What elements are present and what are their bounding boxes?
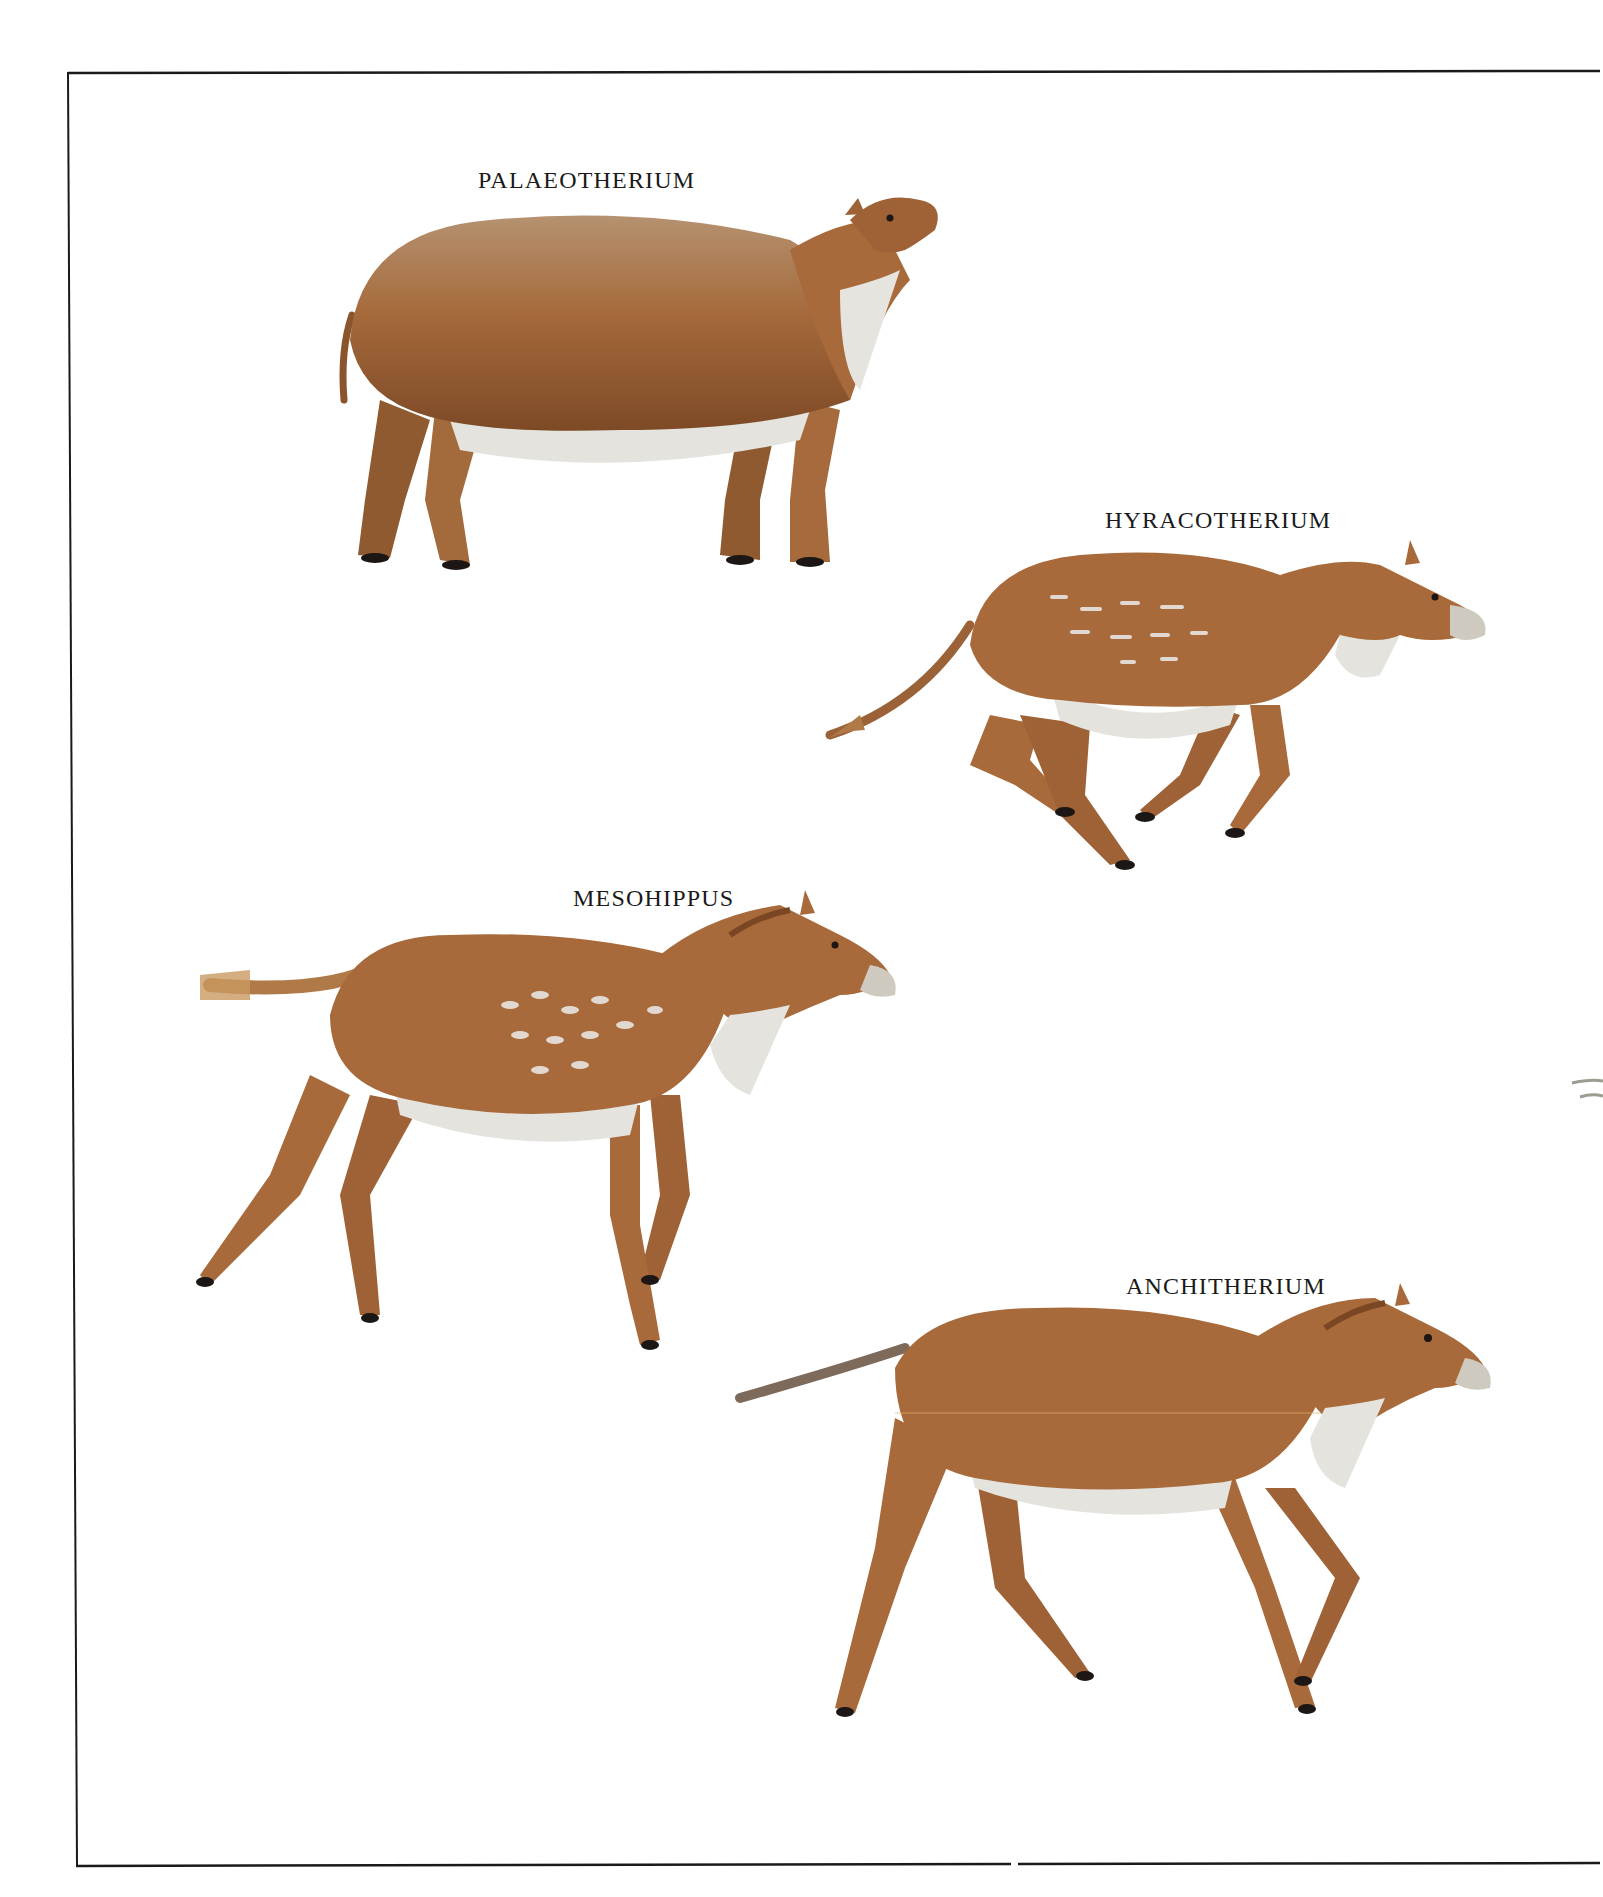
animal-label-palaeotherium: PALAEOTHERIUM: [478, 168, 695, 192]
anchitherium-illustration: [735, 1288, 1525, 1728]
edge-fragment: [1572, 1080, 1603, 1097]
frame-bottom-rule-left: [76, 1864, 1011, 1866]
hyracotherium-illustration: [820, 535, 1520, 885]
frame-left-rule: [68, 72, 77, 1866]
frame-bottom-rule-right: [1018, 1863, 1600, 1864]
animal-label-hyracotherium: HYRACOTHERIUM: [1105, 508, 1331, 532]
palaeotherium-illustration: [320, 200, 940, 590]
frame-top-rule: [68, 71, 1600, 73]
